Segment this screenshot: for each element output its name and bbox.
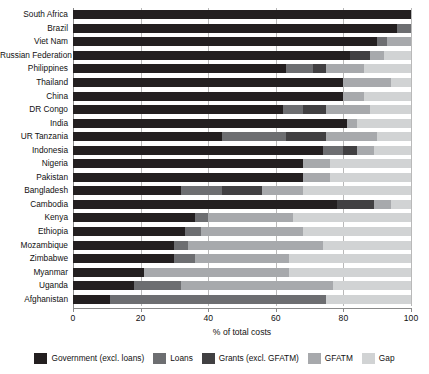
bar-segment	[377, 132, 411, 141]
legend-item[interactable]: Loans	[153, 353, 193, 364]
bar-segment	[73, 200, 337, 209]
bar-row	[73, 146, 411, 155]
bar-row	[73, 213, 411, 222]
bar-segment	[337, 200, 374, 209]
legend-label: Grants (excl. GFATM)	[219, 353, 299, 364]
bar-row	[73, 37, 411, 46]
bars-container	[73, 8, 411, 306]
bar-segment	[222, 132, 286, 141]
bar-segment	[323, 146, 343, 155]
category-label: Nigeria	[0, 159, 68, 168]
bar-segment	[188, 241, 323, 250]
bar-row	[73, 78, 411, 87]
category-label: UR Tanzania	[0, 132, 68, 141]
bar-row	[73, 24, 411, 33]
bar-segment	[174, 254, 194, 263]
bar-segment	[350, 51, 370, 60]
bar-segment	[303, 227, 411, 236]
bar-segment	[222, 186, 263, 195]
bar-row	[73, 64, 411, 73]
bar-segment	[289, 254, 411, 263]
bar-segment	[303, 173, 330, 182]
legend-label: Government (excl. loans)	[51, 353, 144, 364]
bar-segment	[370, 105, 411, 114]
bar-row	[73, 132, 411, 141]
bar-segment	[73, 64, 286, 73]
bar-segment	[73, 254, 174, 263]
bar-segment	[73, 186, 181, 195]
x-tick-label: 20	[121, 313, 161, 324]
bar-segment	[174, 241, 188, 250]
category-label: Russian Federation	[0, 51, 68, 60]
x-tick-40	[208, 308, 209, 312]
bar-segment	[391, 78, 411, 87]
category-label: Ethiopia	[0, 227, 68, 236]
category-label: Zimbabwe	[0, 254, 68, 263]
x-tick-label: 80	[323, 313, 363, 324]
bar-segment	[330, 173, 411, 182]
bar-segment	[195, 213, 209, 222]
legend-item[interactable]: Gap	[362, 353, 395, 364]
bar-segment	[323, 241, 411, 250]
category-label: China	[0, 92, 68, 101]
category-label: South Africa	[0, 10, 68, 19]
legend-swatch-icon	[202, 353, 215, 364]
bar-row	[73, 51, 411, 60]
bar-segment	[73, 78, 343, 87]
x-tick-label: 60	[256, 313, 296, 324]
legend-swatch-icon	[308, 353, 321, 364]
bar-segment	[364, 92, 411, 101]
bar-segment	[343, 78, 390, 87]
bar-row	[73, 268, 411, 277]
legend-swatch-icon	[34, 353, 47, 364]
bar-segment	[73, 241, 174, 250]
x-tick-100	[411, 308, 412, 312]
bar-segment	[73, 105, 283, 114]
bar-segment	[73, 159, 303, 168]
gridline-100	[411, 8, 412, 306]
bar-segment	[73, 92, 343, 101]
category-label: Brazil	[0, 24, 68, 33]
bar-segment	[73, 51, 350, 60]
bar-segment	[333, 281, 411, 290]
bar-segment	[303, 159, 330, 168]
bar-segment	[374, 200, 391, 209]
bar-segment	[283, 105, 303, 114]
x-tick-80	[343, 308, 344, 312]
bar-segment	[303, 105, 327, 114]
category-label: Thailand	[0, 78, 68, 87]
bar-segment	[313, 64, 327, 73]
x-axis-line	[73, 308, 411, 309]
legend-item[interactable]: GFATM	[308, 353, 353, 364]
x-tick-label: 0	[53, 313, 93, 324]
bar-segment	[73, 119, 347, 128]
x-tick-20	[141, 308, 142, 312]
category-label: Philippines	[0, 64, 68, 73]
bar-segment	[181, 186, 222, 195]
bar-row	[73, 159, 411, 168]
bar-row	[73, 105, 411, 114]
bar-row	[73, 281, 411, 290]
category-label: Cambodia	[0, 200, 68, 209]
bar-segment	[201, 227, 302, 236]
bar-segment	[262, 186, 303, 195]
bar-segment	[73, 10, 411, 19]
bar-segment	[134, 281, 181, 290]
bar-segment	[370, 51, 384, 60]
bar-segment	[73, 295, 110, 304]
chart-legend: Government (excl. loans)LoansGrants (exc…	[0, 353, 429, 364]
x-tick-label: 40	[188, 313, 228, 324]
bar-segment	[326, 105, 370, 114]
legend-swatch-icon	[153, 353, 166, 364]
bar-segment	[387, 37, 411, 46]
legend-item[interactable]: Government (excl. loans)	[34, 353, 144, 364]
legend-item[interactable]: Grants (excl. GFATM)	[202, 353, 299, 364]
bar-segment	[73, 281, 134, 290]
bar-row	[73, 295, 411, 304]
bar-segment	[208, 213, 293, 222]
bar-segment	[73, 24, 397, 33]
bar-segment	[144, 268, 289, 277]
bar-segment	[73, 227, 185, 236]
bar-segment	[343, 146, 357, 155]
x-axis-title: % of total costs	[73, 327, 411, 337]
